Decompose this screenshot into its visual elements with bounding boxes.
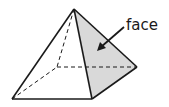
pyramid-diagram: face: [0, 0, 169, 107]
face-label: face: [126, 16, 158, 34]
